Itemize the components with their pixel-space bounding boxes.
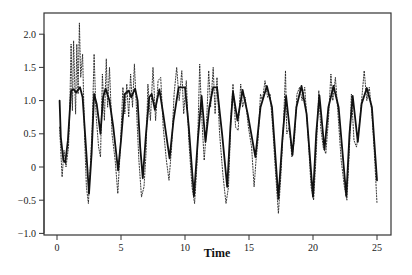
y-tick-label: 0.5: [24, 128, 37, 139]
y-tick-label: −1.0: [18, 228, 36, 239]
x-tick-label: 5: [119, 242, 124, 253]
y-tick-label: 1.0: [24, 95, 37, 106]
y-tick-label: 0: [31, 162, 36, 173]
series-smooth-line: [60, 86, 377, 199]
y-tick-label: −0.5: [18, 195, 36, 206]
y-axis: −1.0−0.500.51.01.52.0: [18, 29, 44, 239]
series-observed-line: [60, 23, 377, 214]
x-tick-label: 20: [308, 242, 318, 253]
x-axis-label: Time: [204, 246, 231, 260]
x-tick-label: 10: [180, 242, 190, 253]
series-layer: [60, 23, 377, 214]
y-tick-label: 2.0: [24, 29, 37, 40]
plot-frame: [44, 13, 391, 235]
line-chart: −1.0−0.500.51.01.52.0 0510152025 Time: [0, 0, 412, 275]
x-tick-label: 0: [55, 242, 60, 253]
x-tick-label: 15: [244, 242, 254, 253]
x-tick-label: 25: [372, 242, 382, 253]
y-tick-label: 1.5: [24, 62, 37, 73]
